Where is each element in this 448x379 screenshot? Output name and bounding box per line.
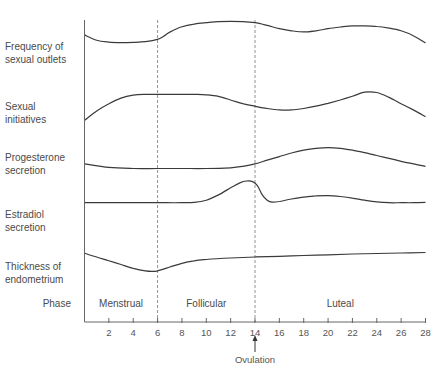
x-tick-label: 6 (155, 327, 160, 338)
row-label-estradiol: Estradiolsecretion (5, 209, 46, 233)
row-label-line: secretion (5, 165, 46, 176)
x-ticks: 246810121416182022242628 (106, 318, 431, 338)
ovulation-label: Ovulation (235, 354, 275, 365)
x-tick-label: 18 (298, 327, 309, 338)
row-label-line: Progesterone (5, 152, 65, 163)
x-tick-label: 26 (396, 327, 407, 338)
row-label-progesterone: Progesteronesecretion (5, 152, 65, 176)
x-tick-label: 16 (274, 327, 285, 338)
row-label-line: Estradiol (5, 209, 44, 220)
row-label-line: secretion (5, 222, 46, 233)
row-label-line: Sexual (5, 101, 36, 112)
phase-row-label: Phase (43, 298, 72, 309)
row-labels: Frequency ofsexual outletsSexualinitiati… (5, 41, 66, 285)
x-tick-label: 22 (347, 327, 358, 338)
row-label-sexual-initiatives: Sexualinitiatives (5, 101, 46, 125)
row-label-sexual-outlets: Frequency ofsexual outlets (5, 41, 66, 65)
row-label-line: Frequency of (5, 41, 64, 52)
phase-label-menstrual: Menstrual (99, 298, 143, 309)
phase-label-follicular: Follicular (186, 298, 227, 309)
annotations: Ovulation (235, 335, 275, 365)
row-label-line: endometrium (5, 274, 63, 285)
menstrual-cycle-diagram: Frequency ofsexual outletsSexualinitiati… (0, 0, 448, 379)
x-tick-label: 2 (106, 327, 111, 338)
phase-labels: MenstrualFollicularLuteal (99, 298, 354, 309)
x-tick-label: 10 (201, 327, 212, 338)
row-label-endometrium: Thickness ofendometrium (5, 261, 63, 285)
row-label-line: sexual outlets (5, 54, 66, 65)
x-tick-label: 28 (420, 327, 431, 338)
phase-dividers (158, 20, 255, 322)
x-tick-label: 4 (131, 327, 136, 338)
x-tick-label: 20 (323, 327, 334, 338)
row-label-line: Thickness of (5, 261, 61, 272)
row-label-line: initiatives (5, 114, 46, 125)
x-tick-label: 12 (225, 327, 236, 338)
x-tick-label: 8 (179, 327, 184, 338)
x-tick-label: 24 (371, 327, 382, 338)
phase-label-luteal: Luteal (327, 298, 354, 309)
